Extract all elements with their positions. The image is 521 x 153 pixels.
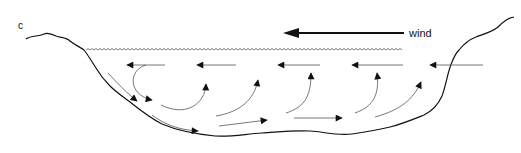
lake-basin-outline: [26, 17, 514, 136]
downwelling-arrows: [108, 65, 152, 101]
bottom-return-arrows: [152, 115, 342, 131]
panel-label: c: [18, 20, 23, 31]
wind-arrow: [283, 28, 404, 38]
water-surface: [86, 49, 402, 51]
wind-label: wind: [408, 27, 432, 39]
upwelling-arrows: [161, 73, 421, 117]
lake-circulation-diagram: c wind: [0, 0, 521, 153]
